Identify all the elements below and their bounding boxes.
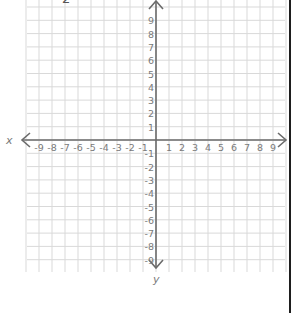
coordinate-plane: 2 xy-9-8-7-6-5-4-3-2-1123456789987654321…	[0, 0, 302, 313]
svg-text:9: 9	[148, 15, 154, 26]
svg-text:-1: -1	[145, 148, 154, 159]
svg-text:7: 7	[148, 42, 154, 53]
svg-text:3: 3	[148, 95, 154, 106]
svg-text:2: 2	[179, 142, 185, 153]
svg-text:-6: -6	[73, 142, 82, 153]
svg-text:4: 4	[148, 82, 154, 93]
svg-text:6: 6	[231, 142, 237, 153]
svg-text:2: 2	[148, 108, 154, 119]
tick-labels: xy-9-8-7-6-5-4-3-2-1123456789987654321-1…	[5, 15, 276, 286]
svg-text:-3: -3	[145, 175, 154, 186]
svg-text:-8: -8	[47, 142, 56, 153]
svg-text:-3: -3	[112, 142, 121, 153]
svg-text:-8: -8	[145, 241, 154, 252]
svg-text:7: 7	[244, 142, 250, 153]
svg-text:-9: -9	[34, 142, 43, 153]
svg-text:5: 5	[218, 142, 224, 153]
svg-text:8: 8	[148, 29, 154, 40]
axes	[22, 1, 286, 268]
svg-text:-4: -4	[99, 142, 108, 153]
page-border	[289, 0, 291, 313]
svg-text:-4: -4	[145, 188, 154, 199]
svg-text:5: 5	[148, 69, 154, 80]
svg-text:-5: -5	[145, 202, 154, 213]
svg-text:6: 6	[148, 55, 154, 66]
svg-text:8: 8	[257, 142, 263, 153]
svg-text:-7: -7	[145, 228, 154, 239]
svg-text:-5: -5	[86, 142, 95, 153]
cropped-label-fragment: 2	[62, 0, 70, 6]
svg-text:1: 1	[148, 122, 154, 133]
svg-text:x: x	[5, 134, 13, 147]
svg-text:-7: -7	[60, 142, 69, 153]
svg-text:1: 1	[166, 142, 172, 153]
svg-text:-2: -2	[145, 162, 154, 173]
svg-text:-2: -2	[125, 142, 134, 153]
grid-svg: xy-9-8-7-6-5-4-3-2-1123456789987654321-1…	[0, 0, 302, 313]
svg-text:4: 4	[205, 142, 211, 153]
svg-text:3: 3	[192, 142, 198, 153]
svg-text:-6: -6	[145, 215, 154, 226]
svg-text:9: 9	[270, 142, 276, 153]
svg-text:y: y	[152, 273, 160, 286]
svg-text:-9: -9	[145, 255, 154, 266]
